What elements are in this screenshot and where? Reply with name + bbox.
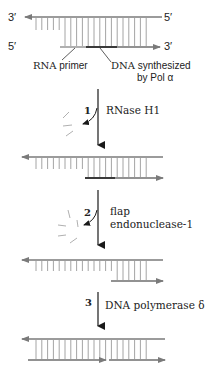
stage-3-duplex [22, 339, 165, 360]
base-pair-rungs [36, 158, 146, 177]
flap-fragment-debris [58, 210, 78, 243]
step-1-enzyme: RNase H1 [106, 104, 160, 116]
top-strand-3prime-label: 3′ [8, 11, 16, 23]
step-3-number: 3 [85, 297, 92, 308]
bottom-strand-3prime-label: 3′ [164, 40, 172, 52]
top-strand-5prime-label: 5′ [164, 11, 172, 23]
base-pair-rungs [36, 18, 146, 46]
step-3: 3 DNA polymerase δ [85, 292, 205, 326]
stage-0-duplex: 3′ 5′ 5′ 3′ RNA primer DNA synthesized b… [8, 11, 191, 83]
dna-synthesized-label: DNA synthesized [111, 60, 191, 71]
rna-primer-leader [62, 48, 75, 60]
step-2-enzyme-line2: endonuclease-1 [110, 218, 193, 230]
base-pair-rungs [36, 340, 146, 359]
rna-primer-label: RNA primer [33, 60, 88, 71]
rna-fragment-debris [63, 112, 73, 136]
step-2: 2 flap endonuclease-1 [58, 190, 193, 245]
step-3-enzyme: DNA polymerase δ [105, 299, 205, 311]
okazaki-processing-diagram: 3′ 5′ 5′ 3′ RNA primer DNA synthesized b… [0, 0, 207, 379]
step-1-number: 1 [84, 105, 91, 116]
stage-2-duplex [22, 260, 163, 281]
bottom-strand-5prime-label: 5′ [8, 40, 16, 52]
step-2-enzyme-line1: flap [110, 205, 130, 217]
base-pair-rungs [36, 261, 146, 280]
by-pol-alpha-label: by Pol α [137, 72, 174, 83]
stage-1-duplex [22, 157, 163, 178]
step-1: 1 RNase H1 [63, 89, 160, 145]
dna-synth-leader [100, 48, 111, 62]
step-2-number: 2 [84, 207, 91, 218]
